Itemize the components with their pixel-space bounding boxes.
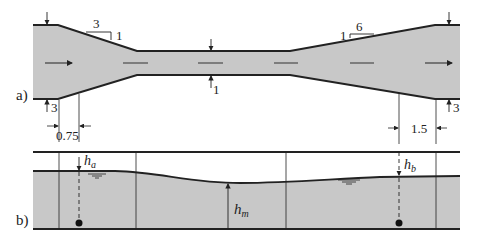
slope-right-rise: 1 (340, 28, 347, 43)
panel-b-label: b) (16, 212, 29, 229)
water-fill (33, 171, 460, 229)
dim-right-width: 3 (453, 100, 460, 115)
gauge-point-icon (396, 220, 403, 227)
channel-diagram: 3 1 1 6 3 1 3 0.75 1.5 a) (0, 0, 477, 240)
dim-left-offset: 0.75 (56, 128, 79, 143)
label-hb: hb (404, 157, 416, 174)
panel-b-profile: ha hm hb b) (16, 152, 460, 229)
dim-left-width: 3 (51, 100, 58, 115)
dim-right-offset: 1.5 (411, 121, 427, 136)
gauge-point-icon (76, 220, 83, 227)
slope-left-rise: 1 (116, 28, 123, 43)
panel-a-plan-view: 3 1 1 6 3 1 3 0.75 1.5 a) (16, 12, 460, 144)
dim-narrow-width: 1 (213, 82, 220, 97)
slope-left-run: 3 (93, 16, 100, 31)
label-ha: ha (84, 153, 96, 170)
slope-right-run: 6 (356, 19, 363, 34)
panel-a-label: a) (16, 87, 28, 104)
